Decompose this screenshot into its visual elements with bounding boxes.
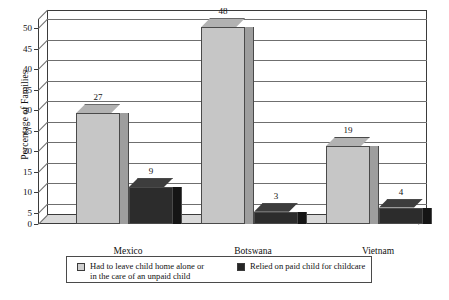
chart-legend: Had to leave child home alone or in the … (66, 256, 372, 283)
bar-side-face (370, 146, 379, 224)
bar-mexico-unpaid[interactable]: 27 (76, 113, 120, 224)
bar-botswana-paid[interactable]: 3 (254, 212, 298, 224)
tick-mark (34, 224, 38, 225)
bar-value-label: 9 (149, 166, 154, 176)
bar-front-face (76, 113, 120, 224)
bar-front-face (254, 212, 298, 224)
bar-value-label: 4 (399, 187, 404, 197)
bar-chart-figure: Percentage of Families 50 45 40 (0, 0, 449, 300)
legend-swatch-icon (77, 263, 85, 271)
legend-label: Relied on paid child for childcare (250, 261, 365, 271)
bar-value-label: 27 (94, 92, 103, 102)
bar-front-face (201, 27, 245, 224)
bar-botswana-unpaid[interactable]: 48 (201, 27, 245, 224)
bar-side-face (173, 187, 182, 224)
bar-side-face (120, 113, 129, 224)
x-category-vietnam: Vietnam (362, 246, 394, 256)
bar-vietnam-unpaid[interactable]: 19 (326, 146, 370, 224)
legend-entry-paid[interactable]: Relied on paid child for childcare (237, 261, 365, 271)
legend-label: Had to leave child home alone or in the … (90, 261, 204, 281)
x-category-mexico: Mexico (113, 246, 142, 256)
bar-side-face (245, 27, 254, 224)
bar-value-label: 48 (219, 6, 228, 16)
bar-side-face (298, 212, 307, 224)
x-category-botswana: Botswana (234, 246, 271, 256)
bar-front-face (326, 146, 370, 224)
bar-front-face (129, 187, 173, 224)
legend-entry-unpaid[interactable]: Had to leave child home alone or in the … (77, 261, 204, 281)
plot-area: 50 45 40 35 30 (38, 10, 428, 232)
bar-value-label: 19 (344, 125, 353, 135)
bar-vietnam-paid[interactable]: 4 (379, 208, 423, 224)
legend-swatch-icon (237, 263, 245, 271)
bar-value-label: 3 (274, 191, 279, 201)
bar-side-face (423, 208, 432, 224)
bar-front-face (379, 208, 423, 224)
bar-mexico-paid[interactable]: 9 (129, 187, 173, 224)
